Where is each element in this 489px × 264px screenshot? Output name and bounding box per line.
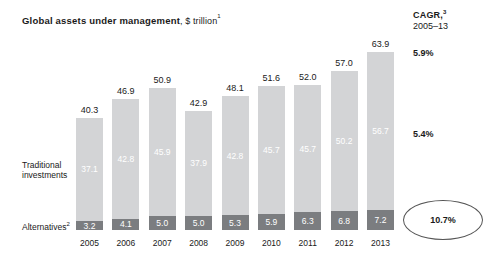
- x-axis-tick-label: 2011: [288, 238, 328, 248]
- cagr-value-alternatives-highlight: 10.7%: [403, 200, 483, 240]
- bar-column: 46.942.84.1: [112, 99, 139, 230]
- bar-segment-alternatives-value: 5.0: [185, 218, 212, 228]
- bar-total-label: 52.0: [288, 72, 328, 82]
- bar-segment-alternatives-value: 5.3: [222, 218, 249, 228]
- bar-total-label: 46.9: [106, 86, 146, 96]
- series-label-traditional: Traditional investments: [22, 160, 82, 180]
- bar-total-label: 48.1: [215, 83, 255, 93]
- bar-segment-alternatives-value: 5.0: [149, 218, 176, 228]
- bar-segment-traditional-value: 37.9: [185, 158, 212, 168]
- bar-segment-alternatives-value: 3.2: [76, 221, 103, 231]
- bar-segment-traditional-value: 45.7: [258, 145, 285, 155]
- cagr-value-total: 5.9%: [413, 48, 475, 58]
- bar-segment-alternatives: 3.2: [76, 221, 103, 230]
- bar-segment-alternatives-value: 4.1: [112, 219, 139, 229]
- x-axis-tick-label: 2010: [251, 238, 291, 248]
- bar-column: 51.645.75.9: [258, 86, 285, 230]
- cagr-value-alternatives: 10.7%: [430, 215, 456, 225]
- cagr-header-period: 2005–13: [413, 21, 475, 31]
- cagr-header: CAGR,3 2005–13: [413, 10, 475, 31]
- bar-segment-alternatives-value: 5.9: [258, 217, 285, 227]
- bar-segment-traditional: 45.7: [258, 86, 285, 213]
- x-axis-tick-label: 2007: [142, 238, 182, 248]
- bar-segment-traditional-value: 50.2: [331, 136, 358, 146]
- series-label-traditional-line2: investments: [22, 170, 82, 180]
- series-label-alternatives-text: Alternatives: [22, 222, 66, 232]
- bar-total-label: 51.6: [251, 73, 291, 83]
- bar-segment-alternatives: 5.0: [185, 216, 212, 230]
- bar-segment-alternatives: 5.3: [222, 215, 249, 230]
- bar-segment-alternatives: 6.8: [331, 211, 358, 230]
- x-axis-tick-label: 2012: [324, 238, 364, 248]
- chart-title-footnote-marker: 1: [217, 13, 220, 19]
- bar-segment-alternatives-value: 6.3: [294, 216, 321, 226]
- bar-segment-traditional: 37.1: [76, 118, 103, 221]
- bar-total-label: 42.9: [179, 98, 219, 108]
- cagr-value-traditional: 5.4%: [413, 129, 475, 139]
- x-axis-tick-label: 2006: [106, 238, 146, 248]
- bar-segment-alternatives-value: 7.2: [367, 215, 394, 225]
- bar-segment-traditional: 37.9: [185, 111, 212, 217]
- chart-title: Global assets under management, $ trilli…: [22, 10, 221, 28]
- bar-segment-traditional-value: 42.8: [112, 154, 139, 164]
- bar-segment-alternatives: 7.2: [367, 210, 394, 230]
- x-axis-tick-label: 2009: [215, 238, 255, 248]
- bar-column: 40.337.13.2: [76, 118, 103, 230]
- bar-segment-traditional-value: 45.9: [149, 147, 176, 157]
- series-label-alternatives-footnote-marker: 2: [66, 221, 69, 227]
- chart-title-sub: , $ trillion: [180, 16, 217, 26]
- bar-segment-alternatives-value: 6.8: [331, 216, 358, 226]
- bar-total-label: 57.0: [324, 58, 364, 68]
- bar-segment-alternatives: 4.1: [112, 219, 139, 230]
- bar-segment-traditional: 50.2: [331, 71, 358, 211]
- bar-column: 48.142.85.3: [222, 96, 249, 230]
- bar-segment-alternatives: 6.3: [294, 212, 321, 230]
- bar-segment-traditional-value: 42.8: [222, 151, 249, 161]
- bar-total-label: 40.3: [70, 105, 110, 115]
- bar-segment-traditional: 45.9: [149, 88, 176, 216]
- series-label-alternatives: Alternatives2: [22, 222, 82, 232]
- bar-segment-traditional-value: 45.7: [294, 144, 321, 154]
- x-axis-tick-label: 2013: [361, 238, 401, 248]
- bar-segment-alternatives: 5.9: [258, 214, 285, 230]
- bar-total-label: 50.9: [142, 75, 182, 85]
- plot-area: 40.337.13.2200546.942.84.1200650.945.95.…: [76, 36, 394, 248]
- bar-column: 42.937.95.0: [185, 111, 212, 230]
- bar-segment-traditional-value: 56.7: [367, 126, 394, 136]
- x-axis-tick-label: 2005: [70, 238, 110, 248]
- bar-segment-alternatives: 5.0: [149, 216, 176, 230]
- x-axis-tick-label: 2008: [179, 238, 219, 248]
- bar-column: 52.045.76.3: [294, 85, 321, 230]
- chart-container: Global assets under management, $ trilli…: [0, 0, 489, 264]
- bar-segment-traditional: 45.7: [294, 85, 321, 212]
- bar-total-label: 63.9: [361, 39, 401, 49]
- bar-column: 50.945.95.0: [149, 88, 176, 230]
- bar-segment-traditional: 56.7: [367, 52, 394, 210]
- bar-column: 63.956.77.2: [367, 52, 394, 230]
- cagr-header-label-text: CAGR,: [413, 10, 443, 20]
- bar-segment-traditional: 42.8: [222, 96, 249, 215]
- cagr-header-footnote-marker: 3: [443, 9, 447, 15]
- bar-segment-traditional: 42.8: [112, 99, 139, 218]
- bar-column: 57.050.26.8: [331, 71, 358, 230]
- bar-segment-traditional-value: 37.1: [76, 164, 103, 174]
- chart-title-main: Global assets under management: [22, 15, 180, 26]
- cagr-header-label: CAGR,3: [413, 10, 475, 20]
- series-label-traditional-line1: Traditional: [22, 160, 82, 170]
